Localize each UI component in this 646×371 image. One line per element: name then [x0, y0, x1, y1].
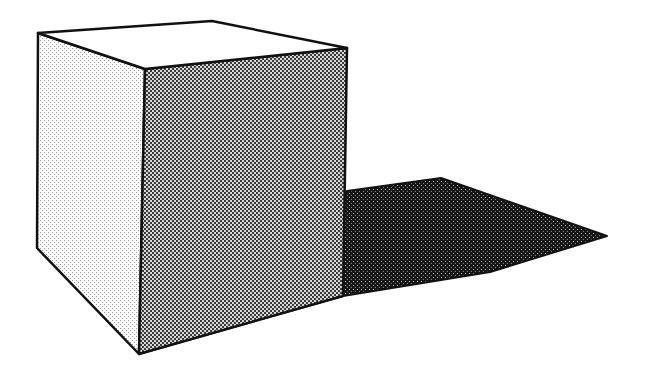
- cube-right-face: [139, 48, 347, 354]
- cube-left-face: [37, 33, 145, 354]
- cube-shadow-illustration: [0, 0, 646, 371]
- cube: [37, 21, 347, 354]
